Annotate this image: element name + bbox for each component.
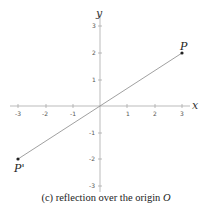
y-tick-label: -1 bbox=[89, 129, 95, 136]
x-tick-label: 2 bbox=[153, 110, 157, 117]
y-tick-label: -3 bbox=[89, 182, 95, 189]
x-axis-label: x bbox=[192, 99, 199, 112]
x-tick-label: -2 bbox=[42, 110, 48, 117]
x-tick-label: -1 bbox=[70, 110, 76, 117]
point-p-prime bbox=[16, 157, 19, 160]
caption-variable: O bbox=[163, 192, 171, 203]
coordinate-plane: -3 -2 -1 1 2 3 3 2 1 -1 -2 -3 x y P P' bbox=[0, 0, 212, 214]
x-tick-label: 3 bbox=[180, 110, 184, 117]
y-tick-label: -2 bbox=[89, 155, 95, 162]
y-axis-label: y bbox=[95, 7, 103, 20]
x-tick-label: -3 bbox=[15, 110, 21, 117]
y-tick-label: 1 bbox=[92, 76, 96, 83]
x-tick-label: 1 bbox=[126, 110, 130, 117]
figure-caption: (c) reflection over the origin O bbox=[0, 192, 212, 203]
y-tick-label: 2 bbox=[92, 49, 96, 56]
point-p-prime-label: P' bbox=[13, 162, 24, 175]
caption-text: (c) reflection over the origin bbox=[41, 192, 163, 203]
point-p-label: P bbox=[179, 40, 188, 53]
y-tick-label: 3 bbox=[92, 22, 96, 29]
